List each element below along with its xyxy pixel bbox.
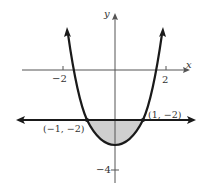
x-tick-label-neg2: −2 [52, 74, 67, 84]
point-label-left: (−1, −2) [43, 124, 84, 134]
point-label-right: (1, −2) [148, 110, 182, 120]
point-neg1-neg2 [85, 118, 89, 122]
point-1-neg2 [141, 118, 145, 122]
x-tick-label-2: 2 [162, 75, 168, 85]
y-tick-label-neg4: −4 [96, 165, 111, 175]
x-axis-label: x [186, 60, 192, 70]
diagram-canvas [0, 0, 208, 189]
y-axis-arrow-icon [112, 13, 118, 20]
y-axis-label: y [104, 9, 110, 19]
